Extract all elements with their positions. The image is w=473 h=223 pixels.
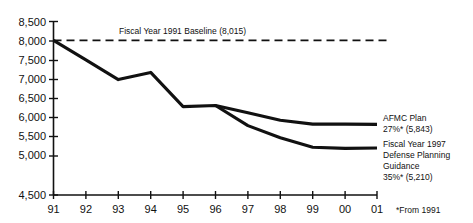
- chart-container: 8,500 8,000 7,500 7,000 6,500 6,000 5,50…: [0, 0, 473, 223]
- y-tick-label: 6,500: [18, 92, 46, 104]
- annotation-dpg-line4: 35%* (5,210): [383, 172, 433, 182]
- y-tick-label: 5,000: [18, 149, 46, 161]
- annotation-dpg-line3: Guidance: [383, 161, 420, 171]
- annotation-dpg-1997: Fiscal Year 1997 Defense Planning Guidan…: [383, 139, 450, 182]
- annotation-afmc-plan-line1: AFMC Plan: [383, 113, 427, 123]
- x-tick-label: 97: [242, 203, 254, 215]
- x-tick-label: 95: [177, 203, 189, 215]
- y-tick-label: 8,500: [18, 16, 46, 28]
- x-axis-labels: 91 92 93 94 95 96 97 98 99 00 01: [47, 203, 383, 215]
- annotation-dpg-line1: Fiscal Year 1997: [383, 139, 446, 149]
- annotation-afmc-plan-line2: 27%* (5,843): [383, 124, 433, 134]
- y-tick-label: 4,500: [18, 189, 46, 201]
- x-tick-label: 99: [307, 203, 319, 215]
- axes: [54, 21, 378, 195]
- y-tick-label: 7,000: [18, 73, 46, 85]
- x-tick-label: 01: [371, 203, 383, 215]
- annotation-afmc-plan: AFMC Plan 27%* (5,843): [383, 113, 433, 134]
- y-axis-labels: 8,500 8,000 7,500 7,000 6,500 6,000 5,50…: [18, 16, 46, 201]
- y-tick-label: 8,000: [18, 35, 46, 47]
- y-tick-label: 6,000: [18, 111, 46, 123]
- y-tick-label: 5,500: [18, 130, 46, 142]
- series-line-afmc-plan: [54, 40, 378, 124]
- x-tick-label: 92: [80, 203, 92, 215]
- baseline-label: Fiscal Year 1991 Baseline (8,015): [119, 26, 246, 36]
- x-tick-label: 00: [339, 203, 351, 215]
- x-tick-label: 96: [209, 203, 221, 215]
- x-tick-label: 98: [274, 203, 286, 215]
- x-tick-label: 91: [47, 203, 59, 215]
- x-tick-label: 94: [145, 203, 157, 215]
- line-chart: 8,500 8,000 7,500 7,000 6,500 6,000 5,50…: [0, 0, 473, 223]
- footnote: *From 1991: [396, 205, 441, 215]
- x-tick-label: 93: [112, 203, 124, 215]
- y-tick-label: 7,500: [18, 54, 46, 66]
- annotation-dpg-line2: Defense Planning: [383, 150, 450, 160]
